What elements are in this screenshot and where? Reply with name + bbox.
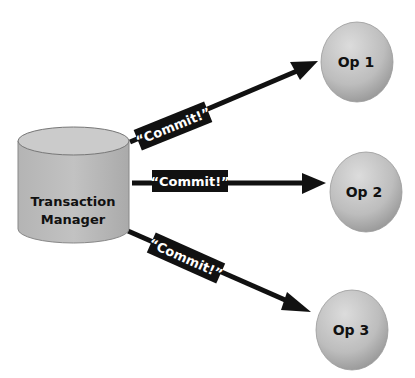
op3-node: Op 3	[316, 290, 388, 370]
transaction-manager-label-line1: Transaction	[31, 194, 116, 209]
op1-label: Op 1	[338, 54, 375, 70]
edge-label-op3: “Commit!”	[145, 232, 226, 284]
cylinder-top	[18, 127, 129, 155]
commit-label-2: “Commit!”	[150, 174, 229, 189]
arrow-head-icon	[302, 173, 326, 194]
edge-label-op1: “Commit!”	[132, 101, 214, 151]
op2-label: Op 2	[346, 184, 383, 200]
op3-label: Op 3	[333, 322, 370, 338]
op1-node: Op 1	[321, 22, 393, 102]
op2-node: Op 2	[330, 152, 402, 232]
arrow-head-icon	[281, 292, 311, 312]
transaction-manager-node: Transaction Manager	[18, 127, 129, 243]
transaction-manager-label-line2: Manager	[41, 212, 106, 227]
diagram-canvas: “Commit!” “Commit!” “Commit!” Transactio…	[0, 0, 415, 378]
edge-label-op2: “Commit!”	[150, 170, 229, 192]
